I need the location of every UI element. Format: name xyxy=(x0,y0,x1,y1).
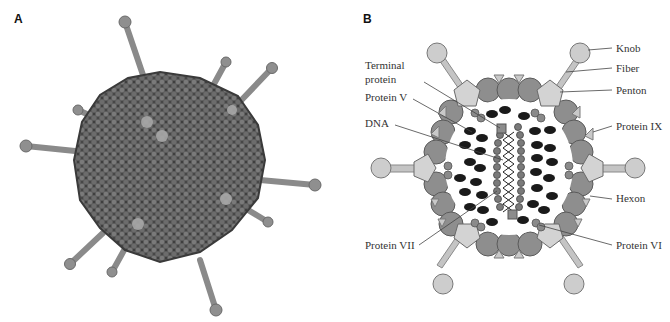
label-hexon: Hexon xyxy=(616,192,646,204)
label-protein-vii: Protein VII xyxy=(365,239,415,251)
figure-canvas: Knob Fiber Penton Terminal protein Prote… xyxy=(0,0,670,322)
label-terminal-protein-line2: protein xyxy=(365,73,397,85)
label-protein-ix: Protein IX xyxy=(616,120,662,132)
panel-a-virus-model xyxy=(20,16,321,316)
label-penton: Penton xyxy=(616,84,647,96)
label-terminal-protein-line1: Terminal xyxy=(365,59,405,71)
label-knob: Knob xyxy=(616,42,641,54)
label-protein-vi: Protein VI xyxy=(616,239,662,251)
panel-b-schematic: Knob Fiber Penton Terminal protein Prote… xyxy=(365,42,662,294)
label-dna: DNA xyxy=(365,117,389,129)
label-protein-v: Protein V xyxy=(365,91,407,103)
label-fiber: Fiber xyxy=(616,62,640,74)
